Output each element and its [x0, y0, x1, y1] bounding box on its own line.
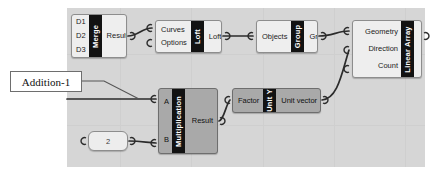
node-linear-array-title: Linear Array — [403, 26, 412, 72]
port-direction[interactable]: Direction — [368, 45, 398, 53]
port-loft[interactable]: Loft — [209, 33, 222, 41]
node-multiplication-inputs: A B — [159, 89, 172, 153]
port-result[interactable]: Result — [192, 117, 213, 125]
node-merge[interactable]: D1 D2 D3 Merge Result — [71, 14, 127, 58]
node-unit-y[interactable]: Factor Unit Y Unit vector — [232, 88, 321, 113]
annotation-callout: Addition-1 — [10, 71, 82, 92]
port-options[interactable]: Options — [161, 39, 187, 47]
node-merge-title-bar[interactable]: Merge — [89, 15, 102, 57]
node-multiplication-title-bar[interactable]: Multiplication — [172, 89, 185, 153]
port-factor[interactable]: Factor — [238, 97, 259, 105]
node-unit-y-title: Unit Y — [265, 89, 274, 112]
port-objects[interactable]: Objects — [262, 33, 287, 41]
node-loft[interactable]: Curves Options Loft Loft ✳ — [155, 20, 222, 53]
port-group[interactable]: Group — [309, 33, 318, 41]
node-group[interactable]: Objects Group Group — [256, 20, 318, 53]
node-group-title-bar[interactable]: Group — [291, 21, 304, 52]
node-linear-array-title-bar[interactable]: Linear Array — [401, 21, 414, 77]
node-linear-array-inputs: Geometry Direction Count — [353, 21, 401, 77]
port-unit-vector[interactable]: Unit vector — [281, 97, 317, 105]
node-unit-y-outputs: Unit vector — [276, 89, 321, 112]
node-loft-output-row: Loft ✳ — [209, 32, 222, 42]
node-merge-inputs: D1 D2 D3 — [72, 15, 89, 57]
port-curves[interactable]: Curves — [161, 26, 187, 34]
port-d1[interactable]: D1 — [76, 18, 86, 26]
node-group-title: Group — [293, 25, 302, 49]
number-slider-value: 2 — [106, 137, 110, 146]
port-count[interactable]: Count — [378, 62, 398, 70]
node-loft-outputs: Loft ✳ — [204, 21, 222, 52]
node-multiplication-title: Multiplication — [174, 95, 183, 146]
port-b[interactable]: B — [164, 136, 169, 144]
node-merge-outputs: Result — [102, 15, 127, 57]
node-unit-y-inputs: Factor — [233, 89, 263, 112]
node-multiplication[interactable]: A B Multiplication Result — [158, 88, 218, 154]
node-loft-title: Loft — [193, 29, 202, 44]
node-group-inputs: Objects — [257, 21, 291, 52]
grid-line — [334, 8, 335, 167]
grasshopper-canvas-screenshot: D1 D2 D3 Merge Result Curves Options Lof… — [0, 0, 435, 180]
number-slider[interactable]: 2 — [88, 131, 128, 151]
port-a[interactable]: A — [164, 98, 169, 106]
grid-line — [67, 125, 425, 126]
port-d3[interactable]: D3 — [76, 46, 86, 54]
node-unit-y-title-bar[interactable]: Unit Y — [263, 89, 276, 112]
node-merge-title: Merge — [91, 24, 100, 47]
node-group-outputs: Group — [304, 21, 318, 52]
annotation-label: Addition-1 — [22, 76, 70, 88]
port-result[interactable]: Result — [107, 32, 127, 40]
node-loft-inputs: Curves Options — [156, 21, 191, 52]
node-linear-array[interactable]: Geometry Direction Count Linear Array — [352, 20, 422, 78]
node-multiplication-outputs: Result — [185, 89, 217, 153]
node-loft-title-bar[interactable]: Loft — [191, 21, 204, 52]
node-linear-array-outputs — [414, 21, 421, 77]
port-geometry[interactable]: Geometry — [365, 28, 398, 36]
port-d2[interactable]: D2 — [76, 32, 86, 40]
